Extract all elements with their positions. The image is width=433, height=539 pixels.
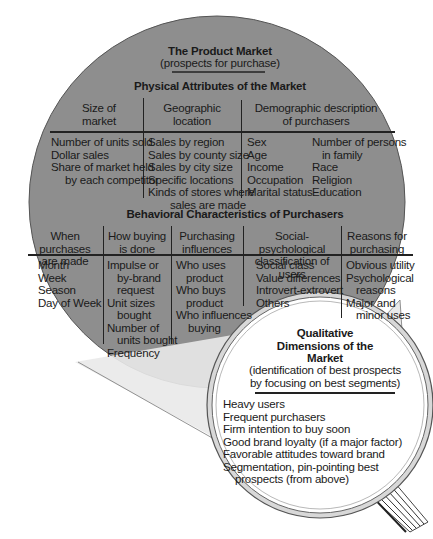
list-item: minor uses	[346, 309, 415, 322]
list-item: Number of persons	[312, 136, 406, 149]
list-item: Frequency	[107, 347, 177, 360]
col-when-items: Month Week Season Day of Week	[38, 259, 101, 309]
list-item: Marital status	[247, 186, 313, 199]
divider	[50, 131, 395, 133]
col-demo-items-left: Sex Age Income Occupation Marital status	[247, 136, 313, 199]
physical-heading: Physical Attributes of the Market	[100, 80, 340, 93]
list-item: product	[176, 297, 252, 310]
col-geo-header: Geographic location	[143, 102, 241, 127]
subtitle-line: (identification of best prospects	[230, 364, 420, 377]
list-item: Religion	[312, 174, 406, 187]
list-item: Favorable attitudes toward brand	[223, 448, 402, 461]
list-item: by each competitor	[51, 174, 159, 187]
list-item: Age	[247, 149, 313, 162]
title-line: Dimensions of the	[250, 340, 400, 353]
list-item: Sex	[247, 136, 313, 149]
header-line: How buying	[103, 230, 171, 243]
list-item: Number of	[107, 322, 177, 335]
list-item: Others	[256, 297, 343, 310]
col-size-header: Size of market	[55, 102, 143, 127]
list-item: Race	[312, 161, 406, 174]
list-item: Season	[38, 284, 101, 297]
list-item: Good brand loyalty (if a major factor)	[223, 436, 402, 449]
list-item: Major and	[346, 297, 415, 310]
col-size-items: Number of units sold Dollar sales Share …	[51, 136, 159, 186]
col-social-items: Social class Value differences Introvert…	[256, 259, 343, 309]
header-line: Reasons for	[341, 230, 413, 243]
list-item: Segmentation, pin-pointing best	[223, 461, 402, 474]
list-item: request	[107, 284, 177, 297]
header-line: When purchases	[26, 230, 104, 255]
list-item: Psychological	[346, 272, 415, 285]
header-line: Demographic description	[241, 102, 391, 115]
list-item: buying	[176, 322, 252, 335]
header-line: Purchasing	[171, 230, 243, 243]
list-item: Day of Week	[38, 297, 101, 310]
list-item: Firm intention to buy soon	[223, 423, 402, 436]
header-line: influences	[171, 243, 243, 256]
list-item: Week	[38, 272, 101, 285]
list-item: Number of units sold	[51, 136, 159, 149]
list-item: Frequent purchasers	[223, 411, 402, 424]
list-item: Who buys	[176, 284, 252, 297]
qualitative-title: Qualitative Dimensions of the Market	[250, 327, 400, 365]
col-how-items: Impulse or by-brand request Unit sizes b…	[107, 259, 177, 359]
list-item: Social class	[256, 259, 343, 272]
list-item: Kinds of stores where	[148, 186, 254, 199]
col-demo-header: Demographic description of purchasers	[241, 102, 391, 127]
col-influences-items: Who uses product Who buys product Who in…	[176, 259, 252, 334]
list-item: prospects (from above)	[223, 473, 402, 486]
list-item: Heavy users	[223, 398, 402, 411]
col-reasons-items: Obvious utility Psychological reasons Ma…	[346, 259, 415, 322]
col-how-header: How buying is done	[103, 230, 171, 255]
header-line: market	[55, 115, 143, 128]
header-line: location	[143, 115, 241, 128]
list-item: Specific locations	[148, 174, 254, 187]
col-reasons-header: Reasons for purchasing	[341, 230, 413, 255]
header-line: purchasing	[341, 243, 413, 256]
list-item: Dollar sales	[51, 149, 159, 162]
qualitative-items: Heavy users Frequent purchasers Firm int…	[223, 398, 402, 486]
list-item: Unit sizes	[107, 297, 177, 310]
list-item: Education	[312, 186, 406, 199]
subtitle-line: by focusing on best segments)	[230, 377, 420, 390]
list-item: Share of market held	[51, 161, 159, 174]
list-item: product	[176, 272, 252, 285]
divider	[255, 392, 395, 394]
header-line: Social-psychological	[243, 230, 341, 255]
list-item: Income	[247, 161, 313, 174]
list-item: Obvious utility	[346, 259, 415, 272]
list-item: Month	[38, 259, 101, 272]
list-item: Sales by city size	[148, 161, 254, 174]
col-demo-items-right: Number of persons in family Race Religio…	[312, 136, 406, 199]
title-line: Qualitative	[250, 327, 400, 340]
diagram-subtitle: (prospects for purchase)	[130, 57, 310, 70]
list-item: units bought	[107, 334, 177, 347]
list-item: Sales by county size	[148, 149, 254, 162]
behavioral-heading: Behavioral Characteristics of Purchasers	[100, 208, 370, 221]
diagram-title: The Product Market	[130, 45, 310, 58]
list-item: Value differences	[256, 272, 343, 285]
header-line: Geographic	[143, 102, 241, 115]
list-item: Occupation	[247, 174, 313, 187]
header-line: Size of	[55, 102, 143, 115]
list-item: in family	[312, 149, 406, 162]
header-line: is done	[103, 243, 171, 256]
list-item: Impulse or	[107, 259, 177, 272]
list-item: by-brand	[107, 272, 177, 285]
list-item: Who influences	[176, 309, 252, 322]
header-line: of purchasers	[241, 115, 391, 128]
title-line: Market	[250, 352, 400, 365]
list-item: bought	[107, 309, 177, 322]
qualitative-subtitle: (identification of best prospects by foc…	[230, 364, 420, 389]
list-item: Who uses	[176, 259, 252, 272]
col-geo-items: Sales by region Sales by county size Sal…	[148, 136, 254, 211]
list-item: reasons	[346, 284, 415, 297]
list-item: Introvert-extrovert	[256, 284, 343, 297]
list-item: Sales by region	[148, 136, 254, 149]
col-influences-header: Purchasing influences	[171, 230, 243, 255]
